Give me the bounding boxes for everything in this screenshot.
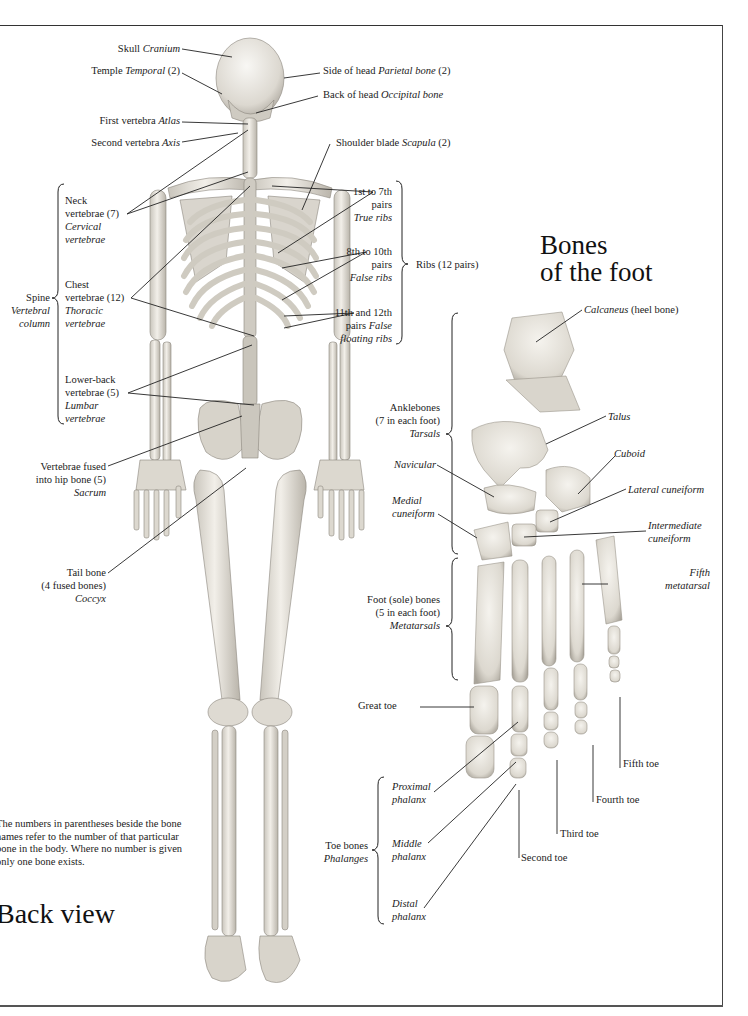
label-latin: phalanx bbox=[392, 910, 426, 923]
label-latin: Phalanges bbox=[300, 852, 368, 865]
label-common: pairs bbox=[346, 320, 366, 331]
cuboid-shape bbox=[546, 466, 590, 512]
label-third-toe: Third toe bbox=[560, 827, 599, 840]
label-calcaneus: Calcaneus (heel bone) bbox=[584, 303, 678, 316]
label-latin: Atlas bbox=[158, 115, 180, 126]
label-fourth-toe: Fourth toe bbox=[596, 793, 639, 806]
skull-shape bbox=[216, 38, 284, 118]
label-lateral-cuneiform: Lateral cuneiform bbox=[628, 483, 704, 496]
label-common: First vertebra bbox=[100, 115, 156, 126]
label-common: (4 fused bones) bbox=[0, 579, 106, 592]
label-ribs: Ribs (12 pairs) bbox=[416, 258, 478, 271]
navicular-shape bbox=[484, 485, 536, 514]
back-view-title: Back view bbox=[0, 898, 115, 930]
label-common: Toe bones bbox=[300, 839, 368, 852]
medial-cuneiform-shape bbox=[474, 522, 512, 560]
label-latin: Tarsals bbox=[340, 427, 440, 440]
label-common: into hip bone (5) bbox=[0, 473, 106, 486]
label-latin: Calcaneus bbox=[584, 304, 628, 315]
label-skull: Skull Cranium bbox=[60, 42, 180, 55]
label-latin: True ribs bbox=[300, 211, 392, 224]
label-latin: cuneiform bbox=[392, 507, 435, 520]
talus-shape bbox=[472, 421, 548, 488]
label-latin: Parietal bone bbox=[378, 65, 435, 76]
label-common: 8th to 10th bbox=[300, 245, 392, 258]
label-latin: floating ribs bbox=[300, 332, 392, 345]
label-second-toe: Second toe bbox=[521, 851, 567, 864]
label-common: Spine bbox=[0, 291, 50, 304]
label-common: Third toe bbox=[560, 828, 599, 839]
label-common: Skull bbox=[118, 43, 140, 54]
label-common: Side of head bbox=[323, 65, 376, 76]
label-latin: Scapula bbox=[402, 137, 436, 148]
label-latin: Temporal bbox=[125, 65, 165, 76]
label-common: Shoulder blade bbox=[336, 137, 399, 148]
label-common: Great toe bbox=[358, 700, 397, 711]
label-temple: Temple Temporal (2) bbox=[40, 64, 180, 77]
foot-bones bbox=[466, 312, 622, 778]
label-back-of-head: Back of head Occipital bone bbox=[323, 88, 443, 101]
label-chest-vertebrae: Chest vertebrae (12) Thoracic vertebrae bbox=[65, 278, 124, 330]
label-latin: Cervical bbox=[65, 220, 119, 233]
label-common: vertebrae (5) bbox=[65, 386, 119, 399]
label-common: 1st to 7th bbox=[300, 185, 392, 198]
label-navicular: Navicular bbox=[360, 458, 436, 471]
intermediate-cuneiform-shape bbox=[512, 524, 536, 546]
label-latin: Occipital bone bbox=[381, 89, 443, 100]
label-metatarsals: Foot (sole) bones (5 in each foot) Metat… bbox=[330, 593, 440, 632]
label-common: pairs bbox=[300, 258, 392, 271]
label-fifth-metatarsal: Fifth metatarsal bbox=[640, 566, 710, 592]
label-latin: column bbox=[0, 317, 50, 330]
label-common: (5 in each foot) bbox=[330, 606, 440, 619]
label-common: Fifth toe bbox=[623, 758, 659, 769]
label-false-ribs: 8th to 10th pairs False ribs bbox=[300, 245, 392, 284]
label-common: Foot (sole) bones bbox=[330, 593, 440, 606]
foot-title-line1: Bones bbox=[540, 232, 652, 259]
label-common: Ribs (12 pairs) bbox=[416, 259, 478, 270]
label-latin: Thoracic bbox=[65, 304, 124, 317]
label-side-of-head: Side of head Parietal bone (2) bbox=[323, 64, 450, 77]
label-common: (7 in each foot) bbox=[340, 414, 440, 427]
label-latin: False bbox=[369, 320, 392, 331]
label-floating-ribs: 11th and 12th pairs False floating ribs bbox=[300, 306, 392, 345]
label-first-vertebra: First vertebra Atlas bbox=[40, 114, 180, 127]
label-common: pairs bbox=[300, 198, 392, 211]
label-lower-back-vertebrae: Lower-back vertebrae (5) Lumbar vertebra… bbox=[65, 373, 119, 425]
label-count: (2) bbox=[438, 137, 450, 148]
label-common: Neck bbox=[65, 194, 119, 207]
label-latin: vertebrae bbox=[65, 233, 119, 246]
label-latin: Lateral cuneiform bbox=[628, 484, 704, 495]
label-latin: cuneiform bbox=[648, 532, 702, 545]
label-fifth-toe: Fifth toe bbox=[623, 757, 659, 770]
label-latin: Metatarsals bbox=[330, 619, 440, 632]
label-middle-phalanx: Middle phalanx bbox=[392, 837, 426, 863]
label-common: vertebrae (12) bbox=[65, 291, 124, 304]
label-latin: Navicular bbox=[394, 459, 436, 470]
label-latin: Medial bbox=[392, 494, 435, 507]
label-common: Fourth toe bbox=[596, 794, 639, 805]
label-neck-vertebrae: Neck vertebrae (7) Cervical vertebrae bbox=[65, 194, 119, 246]
label-latin: phalanx bbox=[392, 850, 426, 863]
label-true-ribs: 1st to 7th pairs True ribs bbox=[300, 185, 392, 224]
foot-title: Bones of the foot bbox=[540, 232, 652, 286]
label-coccyx: Tail bone (4 fused bones) Coccyx bbox=[0, 566, 106, 605]
label-second-vertebra: Second vertebra Axis bbox=[40, 136, 180, 149]
label-great-toe: Great toe bbox=[358, 699, 397, 712]
label-medial-cuneiform: Medial cuneiform bbox=[392, 494, 435, 520]
label-latin: Cranium bbox=[143, 43, 180, 54]
label-latin: Axis bbox=[162, 137, 180, 148]
label-latin: Intermediate bbox=[648, 519, 702, 532]
label-common: Anklebones bbox=[340, 401, 440, 414]
explanatory-note: The numbers in parentheses beside the bo… bbox=[0, 818, 196, 868]
label-common: Vertebrae fused bbox=[0, 460, 106, 473]
label-proximal-phalanx: Proximal phalanx bbox=[392, 780, 431, 806]
label-latin: Cuboid bbox=[614, 448, 645, 459]
label-common: Lower-back bbox=[65, 373, 119, 386]
label-common: Back of head bbox=[323, 89, 378, 100]
label-shoulder-blade: Shoulder blade Scapula (2) bbox=[336, 136, 451, 149]
foot-title-line2: of the foot bbox=[540, 259, 652, 286]
label-talus: Talus bbox=[608, 410, 630, 423]
label-cuboid: Cuboid bbox=[614, 447, 645, 460]
label-latin: False ribs bbox=[300, 271, 392, 284]
label-count: (2) bbox=[438, 65, 450, 76]
